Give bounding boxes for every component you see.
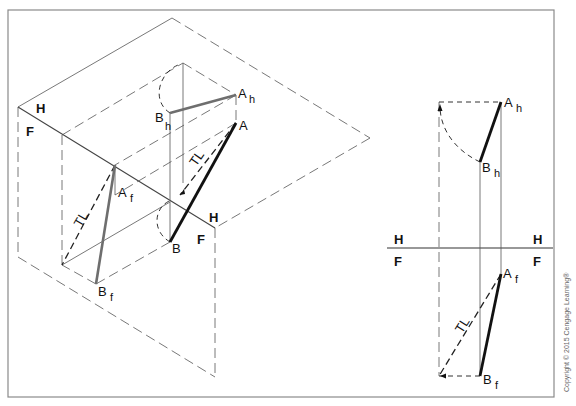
label-bf-right: B (483, 372, 492, 387)
label-bf: B (98, 284, 107, 299)
h-plane-edge-right-bottom (215, 138, 370, 228)
label-af-right: A (503, 266, 512, 281)
arc-arrow-right (438, 104, 443, 111)
bf-to-corner (62, 265, 96, 284)
tl-arrow-upper (180, 189, 185, 195)
label-bh-right: B (482, 160, 491, 175)
label-ah-sub-right: h (516, 102, 522, 114)
revolution-arc-top (159, 64, 181, 113)
label-a: A (239, 118, 248, 133)
label-af-sub: f (130, 192, 134, 204)
label-bh-sub: h (165, 120, 171, 132)
revolution-arc-right (440, 108, 480, 162)
label-ah: A (238, 86, 247, 101)
label-h-left: H (36, 101, 45, 116)
copyright-text: Copyright © 2015 Cengage Learning® (563, 272, 571, 392)
label-h-right-left: H (394, 232, 403, 247)
line-af-bf (96, 165, 115, 284)
label-af: A (118, 185, 127, 200)
label-tl-right: TL (452, 315, 473, 336)
line-af-bf-right (480, 274, 501, 376)
outer-frame (8, 10, 554, 397)
label-bf-sub-right: f (495, 379, 499, 391)
h-plane-edge-top-right (172, 18, 370, 138)
line-ah-bh-right (480, 102, 501, 162)
label-f-left: F (26, 124, 34, 139)
f-plane-bottom-edge (18, 257, 215, 377)
label-bh-sub-right: h (494, 167, 500, 179)
fold-line-hf (18, 107, 215, 228)
label-f-right-left: F (394, 254, 402, 269)
a-projection-diag (115, 123, 236, 195)
label-bf-sub: f (110, 291, 114, 303)
label-ah-sub: h (249, 93, 255, 105)
label-h-right-right: H (533, 232, 542, 247)
label-tl-lower: TL (71, 209, 92, 230)
label-bh: B (155, 110, 164, 125)
pictorial-view: H F H F A h B h A B A f B f TL TL (18, 18, 370, 377)
label-af-sub-right: f (515, 273, 519, 285)
box-top-right (183, 63, 236, 95)
h-plane-edge-top-left (18, 18, 172, 107)
label-f-right-right: F (533, 254, 541, 269)
bf-arrow (440, 374, 446, 379)
orthographic-view: H F H F A h B h A f B f TL (387, 95, 553, 391)
diagram-canvas: H F H F A h B h A B A f B f TL TL (0, 0, 576, 406)
label-ah-right: A (504, 95, 513, 110)
line-ah-bh (170, 95, 236, 113)
b-to-bf-projector (96, 242, 170, 284)
label-h-fold: H (209, 210, 218, 225)
line-a-b-true (170, 123, 236, 242)
label-b: B (172, 241, 181, 256)
label-f-fold: F (197, 232, 205, 247)
